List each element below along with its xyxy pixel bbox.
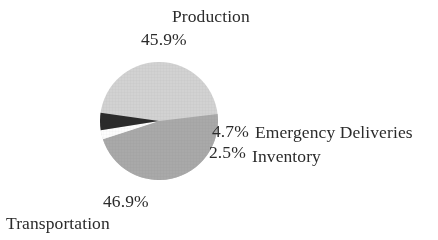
pie-label-production-name: Production bbox=[172, 8, 250, 26]
pie-label-emergency-deliveries-percent: 4.7% bbox=[212, 123, 249, 141]
pie-label-production-percent: 45.9% bbox=[141, 31, 187, 49]
pie-label-transportation-name: Transportation bbox=[6, 215, 110, 233]
pie-label-transportation-percent: 46.9% bbox=[103, 193, 149, 211]
pie-label-inventory-name: Inventory bbox=[252, 148, 321, 166]
pie-slices-svg bbox=[100, 62, 218, 180]
pie-chart-figure: Production 45.9% 4.7% Emergency Deliveri… bbox=[0, 0, 438, 240]
pie-label-inventory-percent: 2.5% bbox=[209, 144, 246, 162]
pie-chart-graphic bbox=[100, 62, 218, 180]
pie-label-emergency-deliveries-name: Emergency Deliveries bbox=[255, 124, 413, 142]
